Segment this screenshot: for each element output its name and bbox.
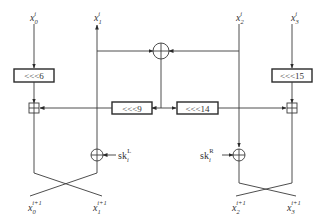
output-label-x1: x1i+1 bbox=[92, 199, 107, 215]
svg-text:x1i: x1i bbox=[93, 10, 102, 25]
output-label-x0: x0i+1 bbox=[27, 199, 42, 215]
output-label-x2: x2i+1 bbox=[231, 199, 246, 215]
add-left-icon bbox=[29, 103, 39, 113]
svg-text:x2i: x2i bbox=[235, 10, 244, 25]
svg-text:x0i: x0i bbox=[29, 10, 38, 25]
wire-cross-right-a bbox=[239, 183, 296, 196]
rot9-label: <<<9 bbox=[122, 104, 142, 114]
svg-text:x1i+1: x1i+1 bbox=[92, 199, 107, 215]
xor-key-left-icon bbox=[91, 149, 103, 161]
input-label-x0: x0i bbox=[29, 10, 38, 25]
wire-cross-right-b bbox=[236, 183, 292, 196]
svg-text:x0i+1: x0i+1 bbox=[27, 199, 42, 215]
rot15-label: <<<15 bbox=[280, 71, 305, 81]
wire-cross-left-b bbox=[30, 173, 97, 196]
wire-cross-left-a bbox=[34, 173, 102, 196]
xor-top-icon bbox=[153, 43, 169, 59]
output-label-x3: x3i+1 bbox=[286, 199, 301, 215]
svg-text:x3i+1: x3i+1 bbox=[286, 199, 301, 215]
key-label-left: skiL bbox=[118, 147, 131, 163]
key-label-right: skiR bbox=[200, 147, 214, 163]
input-label-x2: x2i bbox=[235, 10, 244, 25]
round-function-diagram: x0i x1i x2i x3i <<<6 <<<9 <<<14 <<<15 bbox=[0, 0, 322, 224]
svg-text:x3i: x3i bbox=[290, 10, 299, 25]
svg-text:x2i+1: x2i+1 bbox=[231, 199, 246, 215]
rot14-label: <<<14 bbox=[185, 104, 210, 114]
xor-key-right-icon bbox=[233, 149, 245, 161]
add-right-icon bbox=[287, 103, 297, 113]
input-label-x3: x3i bbox=[290, 10, 299, 25]
svg-text:skiL: skiL bbox=[118, 147, 131, 163]
svg-text:skiR: skiR bbox=[200, 147, 214, 163]
input-label-x1: x1i bbox=[93, 10, 102, 25]
rot6-label: <<<6 bbox=[24, 71, 44, 81]
